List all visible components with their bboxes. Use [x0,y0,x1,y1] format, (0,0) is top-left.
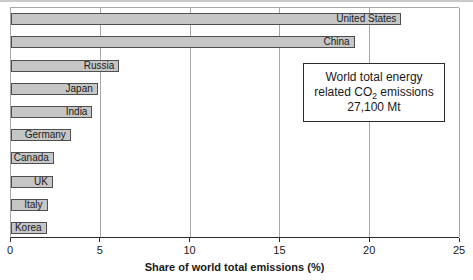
bar-label-united-states: United States [336,14,396,24]
emissions-bar-chart: United StatesChinaRussiaJapanIndiaGerman… [0,0,473,280]
bar-italy: Italy [11,199,48,211]
bar-label-germany: Germany [25,130,66,140]
bar-label-russia: Russia [84,61,115,71]
bar-label-uk: UK [34,177,48,187]
x-tick-25 [459,238,460,242]
bar-canada: Canada [11,152,54,164]
annotation-line-3: 27,100 Mt [347,100,400,115]
x-tick-5 [99,238,100,242]
x-tick-label-25: 25 [453,244,465,256]
annotation-box: World total energy related CO2 emissions… [303,63,445,122]
x-tick-15 [279,238,280,242]
x-axis-title: Share of world total emissions (%) [10,261,459,273]
plot-area: United StatesChinaRussiaJapanIndiaGerman… [10,7,459,238]
bar-label-korea: Korea [15,223,42,233]
x-tick-10 [189,238,190,242]
x-tick-label-10: 10 [183,244,195,256]
bar-korea: Korea [11,222,47,234]
gridline-20 [369,8,370,237]
bar-china: China [11,36,355,48]
x-tick-label-0: 0 [7,244,13,256]
top-edge-artifact [0,0,473,2]
x-tick-label-20: 20 [363,244,375,256]
annotation-line-2: related CO2 emissions [314,85,433,100]
x-tick-label-5: 5 [97,244,103,256]
bar-japan: Japan [11,83,98,95]
bar-label-india: India [66,107,88,117]
bar-germany: Germany [11,129,71,141]
bar-label-china: China [324,37,350,47]
bar-india: India [11,106,92,118]
annotation-line-1: World total energy [325,70,422,85]
gridline-25 [459,8,460,237]
x-tick-20 [369,238,370,242]
x-tick-0 [10,238,11,242]
bar-uk: UK [11,176,53,188]
bar-label-canada: Canada [14,153,49,163]
bar-label-italy: Italy [24,200,42,210]
bar-united-states: United States [11,13,401,25]
bar-russia: Russia [11,60,119,72]
x-tick-label-15: 15 [273,244,285,256]
bar-label-japan: Japan [66,84,93,94]
